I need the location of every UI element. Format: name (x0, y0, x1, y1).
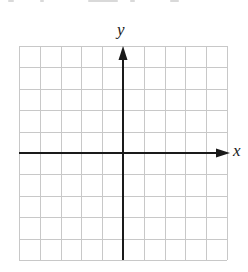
cropped-text-fragments (0, 0, 248, 4)
text-fragment (170, 0, 179, 2)
text-fragment (130, 0, 135, 2)
text-fragment (88, 0, 118, 2)
coordinate-plane-figure: y x (0, 0, 248, 272)
grid-graph (0, 0, 248, 272)
y-axis-label: y (117, 21, 125, 38)
x-axis-label: x (233, 142, 241, 159)
text-fragment (8, 0, 14, 2)
y-axis-arrowhead-icon (119, 46, 128, 60)
text-fragment (40, 0, 44, 2)
axes (19, 46, 230, 260)
